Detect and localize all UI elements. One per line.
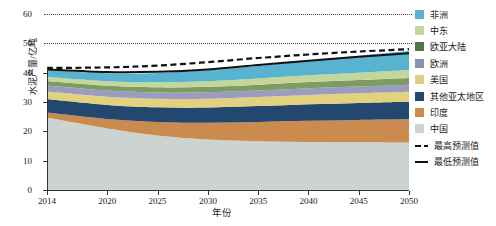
legend-item-label: 美国 [430,73,448,86]
legend-item-label: 中东 [430,24,448,37]
x-tick-mark [258,191,259,195]
legend-item-非洲[interactable]: 非洲 [415,6,496,22]
legend-swatch-icon [415,75,424,84]
legend-item-其他亚太地区[interactable]: 其他亚太地区 [415,88,496,104]
legend-swatch-icon [415,92,424,101]
x-axis-title: 年份 [47,205,397,219]
chart-legend: 非洲中东欧亚大陆欧洲美国其他亚太地区印度中国最高预测值最低预测值 [415,6,496,170]
legend-item-中东[interactable]: 中东 [415,22,496,38]
legend-swatch-icon [415,42,424,51]
legend-item-label: 最低预测值 [434,155,479,168]
y-axis-line [47,67,48,190]
legend-item-最低预测值[interactable]: 最低预测值 [415,154,496,170]
legend-item-label: 欧洲 [430,57,448,70]
x-axis-line [47,190,409,191]
legend-item-label: 其他亚太地区 [430,90,484,103]
legend-swatch-icon [415,108,424,117]
solid-line-icon [415,157,428,166]
legend-item-label: 欧亚大陆 [430,40,466,53]
legend-item-印度[interactable]: 印度 [415,104,496,120]
legend-item-欧亚大陆[interactable]: 欧亚大陆 [415,39,496,55]
legend-item-欧洲[interactable]: 欧洲 [415,55,496,71]
plot-area-wrapper: 水泥产量/亿吨 0102030405060 201420202025203020… [0,0,496,226]
x-tick-mark [359,191,360,195]
legend-item-label: 中国 [430,122,448,135]
legend-swatch-icon [415,10,424,19]
legend-item-最高预测值[interactable]: 最高预测值 [415,137,496,153]
legend-swatch-icon [415,59,424,68]
x-tick-mark [409,191,410,195]
x-tick-mark [158,191,159,195]
legend-swatch-icon [415,26,424,35]
legend-item-label: 最高预测值 [434,139,479,152]
dashed-line-icon [415,141,428,150]
legend-item-label: 印度 [430,106,448,119]
legend-item-美国[interactable]: 美国 [415,72,496,88]
chart-root: 水泥产量/亿吨 0102030405060 201420202025203020… [0,0,496,226]
x-tick-mark [107,191,108,195]
legend-swatch-icon [415,124,424,133]
x-tick-mark [208,191,209,195]
legend-item-中国[interactable]: 中国 [415,121,496,137]
legend-item-label: 非洲 [430,8,448,21]
x-tick-mark [47,191,48,195]
x-tick-mark [308,191,309,195]
